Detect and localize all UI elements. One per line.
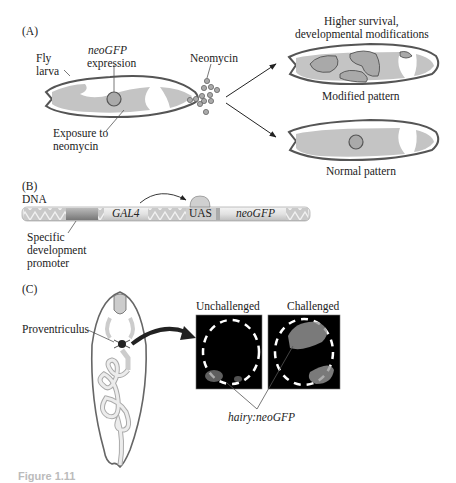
unchallenged-label: Unchallenged [196, 300, 260, 313]
neogfp-label: neoGFP [88, 44, 127, 57]
zoom-arrowhead [180, 326, 196, 340]
larva-gut-drawing [92, 292, 146, 467]
neomycin-label: Neomycin [190, 52, 238, 65]
panel-c-label: (C) [22, 283, 37, 296]
promoter-label-2: development [27, 244, 86, 257]
normal-pattern-label: Normal pattern [326, 165, 396, 178]
higher-survival-label: Higher survival, [324, 15, 399, 28]
figure-caption: Figure 1.11 [18, 470, 75, 482]
exposure-label: Exposure to [53, 127, 108, 140]
gal4-protein [190, 196, 210, 207]
modified-pattern-label: Modified pattern [322, 90, 400, 103]
promoter-leader [68, 221, 76, 233]
challenged-label: Challenged [287, 300, 339, 313]
arrow-to-normal [226, 103, 276, 137]
promoter-label-3: promoter [27, 257, 69, 270]
gal4-binding-arrow [140, 194, 186, 203]
fly-larva-left [46, 76, 198, 117]
exposure-label-2: neomycin [53, 140, 98, 153]
expression-label: expression [87, 57, 136, 70]
unchallenged-image [196, 315, 262, 389]
panel-b-label: (B) [22, 180, 37, 193]
larva-label: larva [36, 65, 59, 78]
proventriculus-label: Proventriculus [22, 323, 89, 336]
promoter-label-1: Specific [27, 231, 65, 244]
fly-label: Fly [36, 52, 51, 65]
fly-larva-modified [289, 44, 438, 84]
neogfp-gene-label: neoGFP [236, 207, 275, 220]
fly-larva-normal [289, 120, 438, 160]
hairy-neogfp-label: hairy:neoGFP [228, 411, 295, 424]
challenged-image [268, 315, 340, 389]
gal4-label: GAL4 [112, 207, 139, 220]
fly-larva-leader [64, 70, 70, 76]
panel-a-label: (A) [22, 25, 38, 38]
neomycin-leader [207, 64, 211, 78]
uas-label: UAS [189, 207, 212, 220]
dna-label: DNA [22, 193, 47, 206]
arrow-to-modified [226, 64, 276, 97]
developmental-modifications-label: developmental modifications [295, 28, 429, 41]
